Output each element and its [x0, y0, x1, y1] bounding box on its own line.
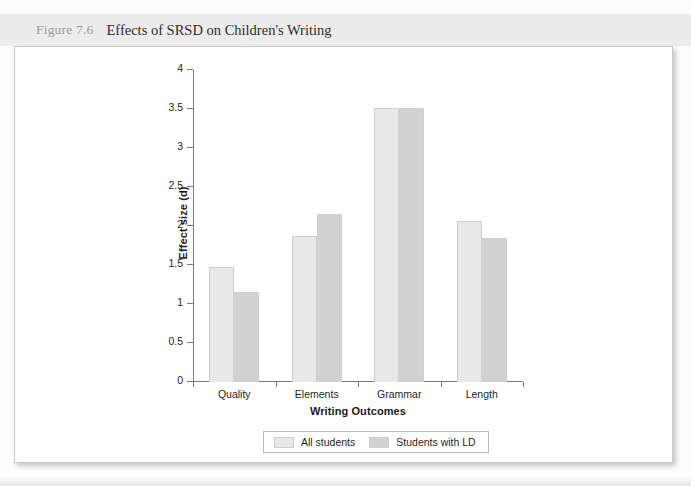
page-edge-shadow [0, 476, 691, 486]
bar [317, 214, 342, 382]
bar [482, 238, 507, 382]
legend-label: All students [301, 436, 355, 448]
figure-page: Figure 7.6 Effects of SRSD on Children's… [0, 0, 691, 486]
bar [399, 108, 424, 382]
y-tick-label: 0 [177, 374, 183, 386]
x-axis-title: Writing Outcomes [193, 405, 523, 417]
chart-legend: All studentsStudents with LD [263, 431, 489, 453]
legend-swatch-icon [369, 437, 389, 448]
legend-label: Students with LD [396, 436, 475, 448]
category-label: Grammar [377, 388, 421, 400]
category-label: Length [466, 388, 498, 400]
category-label: Elements [295, 388, 339, 400]
y-tick-label: 3 [177, 140, 183, 152]
bar [292, 236, 317, 382]
legend-item: All students [274, 436, 355, 448]
x-tick [523, 382, 524, 387]
bars-layer [193, 70, 523, 382]
category-label: Quality [218, 388, 251, 400]
bar [457, 221, 482, 382]
legend-swatch-icon [274, 437, 294, 448]
y-tick-label: 2.5 [168, 179, 183, 191]
x-tick [193, 382, 194, 387]
figure-header-band: Figure 7.6 Effects of SRSD on Children's… [0, 14, 691, 46]
y-tick-label: 2 [177, 218, 183, 230]
x-tick [441, 382, 442, 387]
y-tick-label: 0.5 [168, 335, 183, 347]
bar [234, 292, 259, 382]
legend-item: Students with LD [369, 436, 475, 448]
figure-number-label: Figure 7.6 [36, 22, 94, 38]
y-tick-label: 3.5 [168, 101, 183, 113]
bar [209, 267, 234, 382]
y-tick-label: 1 [177, 296, 183, 308]
x-tick [276, 382, 277, 387]
y-tick-label: 1.5 [168, 257, 183, 269]
bar-chart: Effect size (d) 00.511.522.533.54 Qualit… [15, 47, 674, 464]
x-tick [358, 382, 359, 387]
y-tick-label: 4 [177, 62, 183, 74]
bar [374, 108, 399, 382]
figure-card: Effect size (d) 00.511.522.533.54 Qualit… [14, 46, 673, 463]
plot-area: 00.511.522.533.54 QualityElementsGrammar… [193, 70, 523, 382]
figure-title-label: Effects of SRSD on Children's Writing [107, 22, 332, 39]
